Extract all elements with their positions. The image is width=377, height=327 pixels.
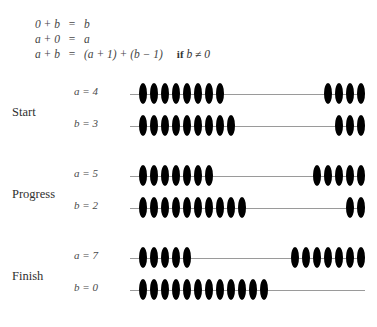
bead-left-group[interactable] — [205, 197, 213, 218]
rod-value-label: b = 2 — [74, 199, 98, 211]
equation-lhs: a + b — [18, 48, 60, 60]
bead-left-group[interactable] — [172, 279, 180, 300]
rod-value-label: a = 7 — [74, 249, 98, 261]
equation-row: 0 + b = b — [18, 18, 358, 33]
bead-left-group[interactable] — [161, 279, 169, 300]
bead-left-group[interactable] — [249, 279, 257, 300]
bead-left-group[interactable] — [205, 115, 213, 136]
bead-right-group[interactable] — [324, 247, 332, 268]
equation-equals-sign: = — [60, 48, 84, 60]
bead-left-group[interactable] — [194, 115, 202, 136]
bead-right-group[interactable] — [346, 115, 354, 136]
bead-left-group[interactable] — [139, 197, 147, 218]
abacus-rod[interactable] — [130, 192, 365, 224]
bead-left-group[interactable] — [139, 165, 147, 186]
equation-rhs: (a + 1) + (b − 1) — [84, 48, 163, 60]
bead-left-group[interactable] — [238, 197, 246, 218]
bead-right-group[interactable] — [357, 83, 365, 104]
bead-right-group[interactable] — [357, 197, 365, 218]
bead-left-group[interactable] — [194, 279, 202, 300]
rod-value-label: b = 3 — [74, 117, 98, 129]
bead-right-group[interactable] — [346, 247, 354, 268]
bead-left-group[interactable] — [161, 247, 169, 268]
bead-left-group[interactable] — [216, 83, 224, 104]
condition-expression: b ≠ 0 — [186, 48, 210, 60]
bead-left-group[interactable] — [172, 197, 180, 218]
bead-left-group[interactable] — [194, 197, 202, 218]
bead-left-group[interactable] — [161, 115, 169, 136]
bead-right-group[interactable] — [313, 165, 321, 186]
bead-left-group[interactable] — [161, 83, 169, 104]
abacus-rod-row: a = 7 — [0, 242, 377, 274]
bead-left-group[interactable] — [150, 83, 158, 104]
bead-left-group[interactable] — [139, 279, 147, 300]
bead-left-group[interactable] — [172, 83, 180, 104]
bead-left-group[interactable] — [227, 115, 235, 136]
bead-left-group[interactable] — [183, 247, 191, 268]
bead-left-group[interactable] — [139, 247, 147, 268]
bead-left-group[interactable] — [216, 197, 224, 218]
bead-left-group[interactable] — [183, 165, 191, 186]
bead-right-group[interactable] — [357, 115, 365, 136]
abacus-stages: Starta = 4b = 3Progressa = 5b = 2Finisha… — [0, 78, 377, 324]
bead-right-group[interactable] — [291, 247, 299, 268]
abacus-rod[interactable] — [130, 242, 365, 274]
equation-equals-sign: = — [60, 33, 84, 45]
bead-right-group[interactable] — [357, 247, 365, 268]
bead-left-group[interactable] — [194, 165, 202, 186]
bead-left-group[interactable] — [227, 197, 235, 218]
equation-lhs: a + 0 — [18, 33, 60, 45]
bead-left-group[interactable] — [260, 279, 268, 300]
bead-left-group[interactable] — [139, 115, 147, 136]
rod-value-label: b = 0 — [74, 281, 98, 293]
bead-right-group[interactable] — [302, 247, 310, 268]
bead-left-group[interactable] — [172, 165, 180, 186]
equation-rhs: b — [84, 18, 90, 30]
abacus-rod[interactable] — [130, 274, 365, 306]
bead-left-group[interactable] — [183, 197, 191, 218]
bead-left-group[interactable] — [238, 279, 246, 300]
rod-value-label: a = 5 — [74, 167, 98, 179]
bead-left-group[interactable] — [172, 247, 180, 268]
bead-left-group[interactable] — [172, 115, 180, 136]
bead-right-group[interactable] — [335, 247, 343, 268]
bead-right-group[interactable] — [335, 115, 343, 136]
bead-left-group[interactable] — [183, 279, 191, 300]
abacus-rod-row: b = 3 — [0, 110, 377, 142]
bead-right-group[interactable] — [346, 165, 354, 186]
abacus-rod-row: a = 5 — [0, 160, 377, 192]
bead-left-group[interactable] — [194, 83, 202, 104]
bead-left-group[interactable] — [216, 115, 224, 136]
bead-left-group[interactable] — [139, 83, 147, 104]
bead-left-group[interactable] — [161, 165, 169, 186]
bead-right-group[interactable] — [324, 165, 332, 186]
bead-right-group[interactable] — [335, 83, 343, 104]
bead-left-group[interactable] — [161, 197, 169, 218]
bead-left-group[interactable] — [150, 197, 158, 218]
abacus-stage: Finisha = 7b = 0 — [0, 242, 377, 324]
abacus-rod[interactable] — [130, 160, 365, 192]
bead-left-group[interactable] — [150, 247, 158, 268]
bead-left-group[interactable] — [183, 83, 191, 104]
bead-right-group[interactable] — [324, 83, 332, 104]
abacus-rod[interactable] — [130, 110, 365, 142]
bead-left-group[interactable] — [205, 165, 213, 186]
bead-left-group[interactable] — [150, 165, 158, 186]
abacus-rod[interactable] — [130, 78, 365, 110]
bead-right-group[interactable] — [357, 165, 365, 186]
bead-right-group[interactable] — [335, 165, 343, 186]
rod-value-label: a = 4 — [74, 85, 98, 97]
bead-left-group[interactable] — [216, 279, 224, 300]
bead-right-group[interactable] — [313, 247, 321, 268]
bead-left-group[interactable] — [205, 83, 213, 104]
bead-left-group[interactable] — [183, 115, 191, 136]
bead-right-group[interactable] — [346, 197, 354, 218]
bead-right-group[interactable] — [346, 83, 354, 104]
bead-left-group[interactable] — [227, 279, 235, 300]
abacus-rod-row: b = 0 — [0, 274, 377, 306]
abacus-stage: Starta = 4b = 3 — [0, 78, 377, 160]
bead-left-group[interactable] — [150, 279, 158, 300]
bead-left-group[interactable] — [150, 115, 158, 136]
bead-left-group[interactable] — [205, 279, 213, 300]
recursion-equations: 0 + b = b a + 0 = a a + b = (a + 1) + (b… — [18, 18, 358, 63]
